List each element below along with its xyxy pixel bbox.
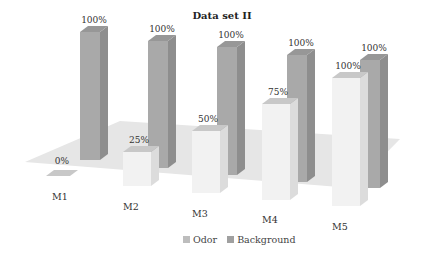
chart-title: Data set II [192,10,252,21]
background-label-1: 100% [81,15,107,25]
background-bar-2-side [168,35,176,168]
legend-item-odor: Odor [183,234,217,245]
odor-label-3: 50% [198,114,218,124]
background-bar-3-side [237,41,245,175]
odor-label-5: 100% [335,61,361,71]
background-label-4: 100% [288,38,314,48]
odor-label-4: 75% [268,87,288,97]
odor-bar-2-front [123,152,151,186]
odor-bar-3-side [220,125,228,193]
odor-label-2: 25% [129,135,149,145]
odor-bar-5-front [332,78,360,206]
background-bar-1-front [80,32,100,160]
legend-swatch-odor [183,236,190,243]
legend-item-background: Background [227,234,295,245]
background-label-3: 100% [218,30,244,40]
odor-label-1: 0% [55,156,70,166]
legend-swatch-background [227,236,234,243]
background-bar-1-side [100,26,108,160]
legend-label-background: Background [237,234,295,245]
background-label-2: 100% [149,24,175,34]
category-label-m5: M5 [332,221,348,232]
background-bar-5-side [380,54,388,188]
odor-bar-1-flat [46,170,78,176]
legend: Odor Background [183,234,296,245]
background-label-5: 100% [361,43,387,53]
category-label-m3: M3 [192,208,208,219]
chart-canvas: Data set II 100%0%100%25%100%50%100%75%1… [0,0,443,260]
legend-label-odor: Odor [193,234,217,245]
odor-bar-5-side [360,72,368,206]
category-label-m4: M4 [262,214,278,225]
odor-bar-2-side [151,146,159,186]
category-label-m2: M2 [123,201,139,212]
background-bar-4-side [307,49,315,182]
odor-bar-4-front [262,104,290,200]
category-label-m1: M1 [52,191,68,202]
odor-bar-4-side [290,98,298,200]
category-labels: M1M2M3M4M5 [52,191,348,232]
odor-bar-3-front [192,131,220,193]
